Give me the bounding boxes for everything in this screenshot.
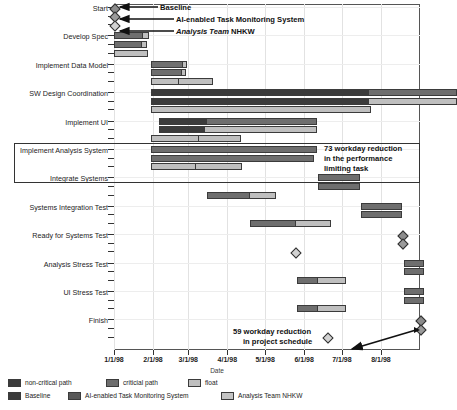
gantt-bar <box>151 106 371 113</box>
y-tick <box>108 72 114 73</box>
gantt-bar-segment-critical <box>251 221 295 226</box>
gantt-bar-segment-critical <box>405 261 423 266</box>
legend-swatch <box>106 379 119 387</box>
gantt-bar-segment-critical <box>405 269 423 274</box>
chart-legend: non-critical pathcriticial pathfloat Bas… <box>8 376 428 402</box>
gantt-bar <box>361 203 403 210</box>
y-tick <box>108 195 114 196</box>
callout-ai-label: AI-enabled Task Monitoring System <box>176 15 304 24</box>
annotation-73-line3: limiting task <box>324 164 368 174</box>
gantt-bar <box>297 277 346 284</box>
gridline-horizontal <box>114 319 420 320</box>
gantt-bar <box>151 61 188 68</box>
gantt-bar-segment-float <box>152 136 199 141</box>
gantt-bar-segment-float <box>182 62 186 67</box>
y-tick <box>108 337 114 338</box>
legend-label: criticial path <box>123 379 158 387</box>
gantt-bar <box>151 78 214 85</box>
legend-swatch <box>8 379 21 387</box>
x-tick <box>153 350 154 355</box>
annotation-73-line2: in the performance <box>324 154 392 164</box>
gantt-bar-segment-noncritical <box>152 90 368 95</box>
y-tick <box>108 223 114 224</box>
gantt-bar-segment-float <box>295 221 329 226</box>
gantt-bar-segment-float <box>368 99 456 104</box>
y-tick <box>108 271 114 272</box>
y-tick <box>108 243 114 244</box>
y-axis-label-finish: Finish <box>0 316 110 325</box>
y-tick <box>108 129 114 130</box>
x-axis-label: 7/1/98 <box>320 356 364 363</box>
y-axis-label-implement-ui: Implement UI <box>0 118 110 127</box>
gantt-bar <box>159 118 316 125</box>
annotation-73-line1: 73 workday reduction <box>324 144 402 154</box>
gantt-bar-segment-float <box>115 51 147 56</box>
y-tick <box>108 109 114 110</box>
gantt-bar <box>404 288 424 295</box>
gantt-bar-segment-critical <box>298 306 317 311</box>
y-tick <box>108 308 114 309</box>
y-tick <box>108 251 114 252</box>
gantt-bar <box>114 50 148 57</box>
x-axis-title: Date <box>0 367 434 374</box>
gantt-bar-segment-float <box>142 33 148 38</box>
y-axis-label-analysis-stress-test: Analysis Stress Test <box>0 260 110 269</box>
x-axis-label: 5/1/98 <box>243 356 287 363</box>
gantt-bar-segment-critical <box>319 184 359 189</box>
gantt-bar-segment-critical <box>208 193 248 198</box>
gantt-bar-segment-float <box>181 70 185 75</box>
gantt-bar <box>361 211 403 218</box>
legend-item: Baseline <box>8 389 50 402</box>
y-tick <box>108 280 114 281</box>
legend-item: non-critical path <box>8 376 72 389</box>
legend-label: Analysis Team NHKW <box>238 392 302 400</box>
callout-analysis-regular: NHKW <box>229 27 255 36</box>
y-axis-label-implement-data-model: Implement Data Model <box>0 61 110 70</box>
x-tick <box>265 350 266 355</box>
gridline-horizontal <box>114 35 420 36</box>
gantt-bar-segment-critical <box>362 204 402 209</box>
gridline-horizontal <box>114 263 420 264</box>
callout-analysis-italic: Analysis Team <box>176 27 229 36</box>
gantt-bar <box>404 297 424 304</box>
gantt-bar <box>404 260 424 267</box>
x-tick <box>304 350 305 355</box>
gantt-bar-segment-float <box>204 127 316 132</box>
gantt-bar <box>297 305 346 312</box>
gantt-bar <box>404 268 424 275</box>
x-axis-label: 1/1/98 <box>92 356 136 363</box>
gantt-bar <box>250 220 331 227</box>
y-tick <box>108 214 114 215</box>
annotation-59-line1: 59 workday reduction <box>233 327 311 337</box>
gridline-horizontal <box>114 291 420 292</box>
x-tick <box>381 350 382 355</box>
gantt-bar-segment-noncritical <box>160 127 204 132</box>
y-axis-label-systems-integration-test: Systems Integration Test <box>0 203 110 212</box>
gantt-bar <box>159 126 316 133</box>
gantt-bar-segment-float <box>198 136 240 141</box>
gantt-bar <box>151 98 457 105</box>
legend-item: float <box>188 376 217 389</box>
y-tick <box>108 101 114 102</box>
gantt-bar <box>151 135 242 142</box>
gantt-bar-segment-critical <box>115 42 141 47</box>
x-tick <box>114 350 115 355</box>
y-tick <box>108 300 114 301</box>
gantt-bar-segment-float <box>249 193 276 198</box>
legend-item: criticial path <box>106 376 158 389</box>
legend-label: Baseline <box>25 392 50 400</box>
gantt-bar-segment-critical <box>152 62 183 67</box>
gantt-bar-segment-critical <box>115 33 142 38</box>
y-axis-label-sw-design-coordination: SW Design Coordination <box>0 89 110 98</box>
y-tick <box>108 328 114 329</box>
x-tick <box>227 350 228 355</box>
gantt-bar <box>151 89 457 96</box>
gridline-horizontal <box>114 234 420 235</box>
x-axis-label: 8/1/98 <box>359 356 403 363</box>
legend-label: AI-enabled Task Monitoring System <box>85 392 189 400</box>
legend-swatch <box>68 392 81 400</box>
legend-row-segment-types: non-critical pathcriticial pathfloat <box>8 376 428 389</box>
gantt-bar-segment-critical <box>405 289 423 294</box>
y-axis-label-ui-stress-test: UI Stress Test <box>0 288 110 297</box>
